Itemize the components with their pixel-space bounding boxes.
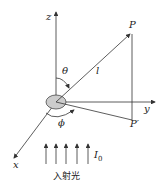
incident-light-arrows xyxy=(46,144,88,164)
point-p-prime-label: P′ xyxy=(130,119,139,129)
incident-light-label: 入射光 xyxy=(53,172,80,181)
x-axis xyxy=(14,102,56,158)
phi-arc xyxy=(46,110,74,117)
scattering-diagram: z y x P P′ θ ϕ l I0 入射光 xyxy=(0,0,162,187)
point-p-label: P xyxy=(129,20,136,30)
projection-op xyxy=(56,102,132,120)
intensity-label: I0 xyxy=(94,150,102,163)
phi-label: ϕ xyxy=(58,118,65,128)
y-label: y xyxy=(144,104,150,114)
z-label: z xyxy=(46,12,51,22)
diagram-graphic xyxy=(0,0,162,187)
x-label: x xyxy=(13,160,19,170)
theta-label: θ xyxy=(62,66,68,76)
l-label: l xyxy=(96,66,99,76)
theta-arc xyxy=(56,78,69,88)
